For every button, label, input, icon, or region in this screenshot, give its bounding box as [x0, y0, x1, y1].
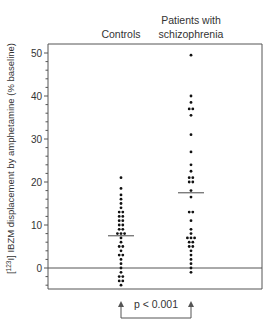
data-point: [193, 237, 196, 240]
data-point: [118, 219, 121, 222]
data-point: [188, 245, 191, 248]
data-point: [190, 237, 193, 240]
arrow-up-icon: [118, 301, 124, 307]
data-point: [190, 114, 193, 117]
y-axis-label: [123I] IBZM displacement by amphetamine …: [5, 43, 16, 274]
data-point: [190, 258, 193, 261]
significance-bracket: p < 0.001: [118, 298, 194, 318]
y-tick-label: 0: [36, 263, 42, 274]
data-point: [120, 267, 123, 270]
data-point: [120, 284, 123, 287]
data-point: [118, 254, 121, 257]
data-point: [120, 241, 123, 244]
data-point: [190, 101, 193, 104]
data-point: [118, 245, 121, 248]
data-point: [121, 215, 124, 218]
y-tick-label: 10: [31, 220, 43, 231]
data-point: [190, 189, 193, 192]
y-axis: 01020304050: [31, 48, 48, 286]
data-point: [191, 176, 194, 179]
p-value-label: p < 0.001: [134, 298, 178, 310]
data-point: [190, 219, 193, 222]
data-point: [190, 267, 193, 270]
data-point: [190, 228, 193, 231]
data-point: [190, 196, 193, 199]
data-point: [123, 232, 126, 235]
data-point: [120, 187, 123, 190]
data-point: [188, 241, 191, 244]
data-point: [121, 211, 124, 214]
data-point: [190, 249, 193, 252]
data-point: [190, 170, 193, 173]
data-point: [118, 228, 121, 231]
data-point: [121, 228, 124, 231]
data-point: [120, 202, 123, 205]
data-point: [190, 95, 193, 98]
data-point: [120, 198, 123, 201]
category-label: Patients with: [161, 14, 221, 26]
data-point: [121, 224, 124, 227]
data-point: [186, 237, 189, 240]
data-point: [190, 163, 193, 166]
data-point: [120, 206, 123, 209]
data-point: [120, 232, 123, 235]
data-point: [188, 211, 191, 214]
data-point: [188, 176, 191, 179]
data-point: [121, 219, 124, 222]
category-label: schizophrenia: [159, 28, 224, 40]
data-point: [118, 280, 121, 283]
data-points: [116, 54, 196, 287]
dot-plot-chart: 01020304050 ControlsPatients withschizop…: [0, 0, 278, 332]
category-label: Controls: [101, 28, 140, 40]
data-point: [190, 254, 193, 257]
data-point: [120, 262, 123, 265]
y-tick-label: 20: [31, 177, 43, 188]
data-point: [188, 181, 191, 184]
y-tick-label: 50: [31, 48, 43, 59]
data-point: [121, 280, 124, 283]
data-point: [121, 275, 124, 278]
data-point: [121, 245, 124, 248]
data-point: [190, 262, 193, 265]
y-tick-label: 40: [31, 91, 43, 102]
category-labels: ControlsPatients withschizophrenia: [101, 14, 223, 40]
data-point: [191, 245, 194, 248]
data-point: [191, 108, 194, 111]
data-point: [190, 54, 193, 57]
data-point: [118, 224, 121, 227]
arrow-up-icon: [188, 301, 194, 307]
data-point: [121, 254, 124, 257]
data-point: [190, 133, 193, 136]
data-point: [120, 258, 123, 261]
data-point: [116, 232, 119, 235]
data-point: [120, 194, 123, 197]
data-point: [190, 151, 193, 154]
y-axis-title: [123I] IBZM displacement by amphetamine …: [5, 43, 16, 274]
data-point: [191, 181, 194, 184]
data-point: [118, 215, 121, 218]
plot-frame: [48, 44, 262, 289]
data-point: [191, 211, 194, 214]
data-point: [118, 211, 121, 214]
y-tick-label: 30: [31, 134, 43, 145]
data-point: [118, 275, 121, 278]
data-point: [191, 241, 194, 244]
data-point: [120, 271, 123, 274]
data-point: [190, 232, 193, 235]
data-point: [120, 249, 123, 252]
data-point: [120, 237, 123, 240]
data-point: [190, 271, 193, 274]
data-point: [188, 108, 191, 111]
data-point: [120, 176, 123, 179]
